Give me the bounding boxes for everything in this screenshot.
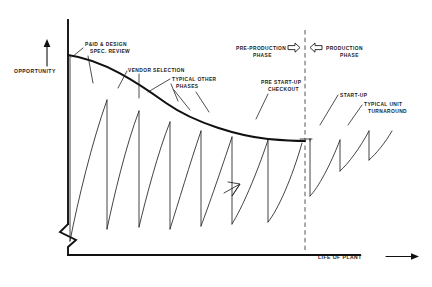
callout-paid-design-review: P&ID & DESIGN SPEC. REVIEW xyxy=(72,42,130,83)
label-production-phase: PRODUCTION PHASE xyxy=(310,43,363,58)
production-phase-line2: PHASE xyxy=(340,53,359,58)
callout-startup-line1: START-UP xyxy=(340,93,368,98)
callout-typical-other-line2: PHASES xyxy=(176,84,199,89)
sawtooth-typical-other-phase-2 xyxy=(170,131,201,229)
left-arrow-outline-icon xyxy=(310,43,322,52)
sawtooth-turnaround-1 xyxy=(340,131,369,171)
production-phase-line1: PRODUCTION xyxy=(326,46,363,51)
sawtooth-turnaround-2 xyxy=(369,131,392,160)
sawtooth-pre-startup-checkout xyxy=(232,140,302,224)
x-axis-label-group: LIFE OF PLANT xyxy=(318,253,419,260)
callout-turnaround-line1: TYPICAL UNIT xyxy=(364,102,402,107)
sawtooth-paid-design-review xyxy=(70,56,107,241)
sawtooth-vendor-selection xyxy=(107,111,139,229)
pre-production-phase-line2: PHASE xyxy=(253,53,272,58)
sawtooth-startup xyxy=(310,139,340,196)
callout-turnaround-line2: TURNAROUND xyxy=(368,109,407,114)
callout-startup: START-UP xyxy=(320,93,368,125)
y-axis-label-group: OPPORTUNITY xyxy=(14,39,56,74)
sawtooth-typical-other-phase-3 xyxy=(201,137,232,226)
right-arrow-outline-icon xyxy=(288,43,300,52)
opportunity-envelope-curve xyxy=(68,55,305,141)
diagram-canvas: OPPORTUNITY LIFE OF PLANT xyxy=(0,0,432,287)
callout-paid-line1: P&ID & DESIGN xyxy=(85,42,127,47)
callout-paid-line2: SPEC. REVIEW xyxy=(90,49,130,54)
callout-typical-other-line1: TYPICAL OTHER xyxy=(172,77,217,82)
callout-prestartup-line1: PRE START-UP xyxy=(261,80,302,85)
opportunity-life-of-plant-diagram: OPPORTUNITY LIFE OF PLANT xyxy=(0,0,432,287)
x-axis-label: LIFE OF PLANT xyxy=(318,254,362,260)
callout-typical-other-phases: TYPICAL OTHER PHASES xyxy=(148,77,217,112)
sawtooth-group-production xyxy=(310,131,392,196)
callout-prestartup-line2: CHECKOUT xyxy=(268,87,299,92)
pre-production-phase-line1: PRE-PRODUCTION xyxy=(236,46,286,51)
sawtooth-typical-other-phase-1 xyxy=(139,122,170,229)
callout-typical-unit-turnaround: TYPICAL UNIT TURNAROUND xyxy=(348,102,407,125)
callout-vendor-line1: VENDOR SELECTION xyxy=(128,68,185,73)
label-pre-production-phase: PRE-PRODUCTION PHASE xyxy=(236,43,300,58)
y-axis-label: OPPORTUNITY xyxy=(14,68,56,74)
callout-pre-startup-checkout: PRE START-UP CHECKOUT xyxy=(256,80,302,119)
